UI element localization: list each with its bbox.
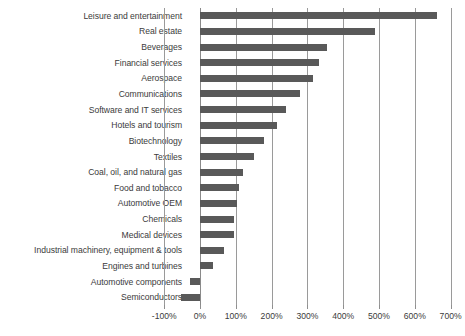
tick-mark [307,305,308,309]
tick-mark [236,305,237,309]
tick-label: 0% [194,311,206,322]
tick-label: 600% [404,311,426,322]
tick-label: 300% [296,311,318,322]
tick-mark [272,305,273,309]
tick-label: 700% [440,311,462,322]
tick-label: 200% [261,311,283,322]
tick-label: 400% [332,311,354,322]
tick-mark [379,305,380,309]
tick-mark [343,305,344,309]
tick-mark [164,305,165,309]
tick-label: 500% [368,311,390,322]
value-axis: -100%0%100%200%300%400%500%600%700% [0,0,465,336]
tick-mark [200,305,201,309]
bar-chart: Leisure and entertainmentReal estateBeve… [0,0,465,336]
tick-label: -100% [152,311,177,322]
tick-mark [415,305,416,309]
tick-mark [451,305,452,309]
tick-label: 100% [225,311,247,322]
